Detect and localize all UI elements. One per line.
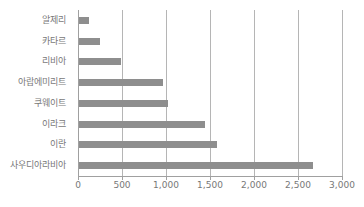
x-tick-label: 500 [113,181,130,190]
bar-chart: 알제리카타르리비아아랍에미리트쿠웨이트이라크이란사우디아라비아 05001,00… [0,0,364,207]
x-tick-label: 2,000 [241,181,267,190]
gridline [254,10,255,176]
category-label: 사우디아라비아 [0,155,72,176]
bar [79,100,168,107]
x-tick-label: 0 [75,181,81,190]
gridline [298,10,299,176]
x-tick-label: 3,000 [329,181,355,190]
category-labels: 알제리카타르리비아아랍에미리트쿠웨이트이라크이란사우디아라비아 [0,10,72,176]
gridline [122,10,123,176]
category-label: 이란 [0,135,72,156]
gridline [166,10,167,176]
bar [79,79,163,86]
category-label: 리비아 [0,52,72,73]
bar [79,58,121,65]
gridline [210,10,211,176]
x-tick-label: 1,000 [153,181,179,190]
plot-area [78,10,343,177]
gridline [342,10,343,176]
bar [79,38,100,45]
category-label: 쿠웨이트 [0,93,72,114]
x-tick-labels: 05001,0001,5002,0002,5003,000 [78,181,342,193]
category-label: 이라크 [0,114,72,135]
category-label: 아랍에미리트 [0,72,72,93]
bar [79,162,313,169]
category-label: 알제리 [0,10,72,31]
bar [79,141,217,148]
x-tick-label: 1,500 [197,181,223,190]
category-label: 카타르 [0,31,72,52]
bar [79,121,205,128]
bar [79,17,89,24]
x-tick-label: 2,500 [285,181,311,190]
